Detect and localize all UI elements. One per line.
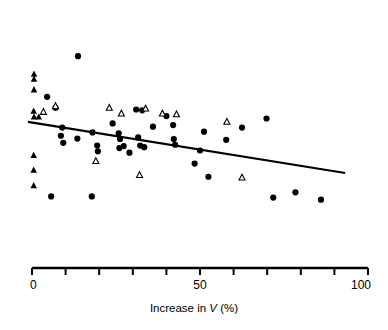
data-point-circle (201, 129, 207, 135)
data-point-circle (292, 189, 298, 195)
data-point-triangle-open (224, 118, 230, 124)
regression-line-layer (28, 122, 345, 173)
data-point-circle (44, 94, 50, 100)
x-tick-label-50: 50 (193, 278, 207, 292)
data-point-triangle-open (239, 174, 245, 180)
data-point-circle (58, 133, 64, 139)
data-point-triangle-open (173, 111, 179, 117)
x-tick-label-0: 0 (30, 278, 37, 292)
data-point-circle (318, 197, 324, 203)
data-point-circle (126, 150, 132, 156)
data-point-triangle-open (143, 105, 149, 111)
data-point-circle (74, 135, 80, 141)
data-point-triangle-filled (31, 86, 37, 92)
data-point-circle (239, 124, 245, 130)
series-filled-triangle (30, 71, 42, 189)
axis-title-suffix: (%) (217, 302, 238, 314)
data-point-circle (141, 144, 147, 150)
data-point-circle (223, 137, 229, 143)
plot-canvas: 050100 Increase in V (%) (0, 0, 388, 330)
data-point-circle (192, 161, 198, 167)
data-point-triangle-open (53, 103, 59, 109)
data-point-circle (170, 122, 176, 128)
data-point-circle (171, 136, 177, 142)
data-point-circle (270, 194, 276, 200)
data-point-triangle-filled (30, 152, 37, 158)
data-point-circle (263, 115, 269, 121)
series-filled-circle (44, 53, 324, 203)
x-tick-label-100: 100 (351, 278, 371, 292)
data-point-triangle-filled (30, 166, 37, 172)
data-point-triangle-open (118, 110, 124, 116)
data-point-triangle-open (40, 109, 46, 115)
data-point-triangle-open (106, 104, 112, 110)
data-point-circle (205, 174, 211, 180)
regression-line (28, 122, 345, 173)
data-point-circle (75, 53, 81, 59)
data-point-triangle-filled (30, 107, 37, 113)
data-point-circle (121, 143, 127, 149)
data-point-triangle-open (137, 172, 143, 178)
data-point-circle (89, 193, 95, 199)
data-point-triangle-filled (30, 182, 37, 188)
data-markers-layer (30, 53, 324, 203)
axis-title-prefix: Increase in (150, 302, 209, 314)
data-point-circle (95, 148, 101, 154)
data-point-circle (94, 142, 100, 148)
x-axis-tick-labels: 050100 (30, 278, 371, 292)
data-point-triangle-open (93, 158, 99, 164)
data-point-triangle-open (159, 110, 165, 116)
data-point-circle (150, 124, 156, 130)
x-axis-title: Increase in V (%) (150, 302, 238, 314)
x-axis-layer (32, 268, 368, 275)
data-point-circle (60, 140, 66, 146)
data-point-circle (133, 106, 139, 112)
scatter-plot-figure: 050100 Increase in V (%) (0, 0, 388, 330)
data-point-circle (110, 120, 116, 126)
data-point-circle (48, 193, 54, 199)
